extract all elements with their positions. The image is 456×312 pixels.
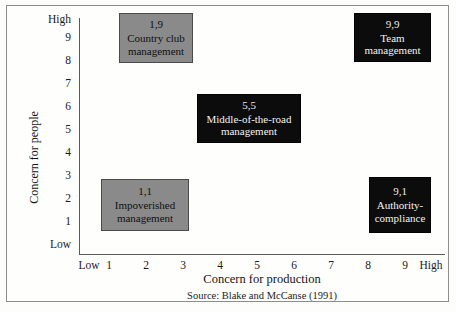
managerial-grid-figure: Concern for people High 9 8 7 6 5 4 3 2 …	[0, 0, 456, 312]
y-axis-high-label: High	[29, 14, 71, 26]
y-axis-line	[79, 18, 80, 255]
y-tick-5: 5	[29, 124, 71, 136]
style-code-impoverished: 1,1	[138, 185, 152, 198]
x-tick-3: 3	[163, 260, 203, 272]
style-code-middle-of-the-road: 5,5	[242, 99, 256, 112]
style-box-country-club[interactable]: 1,9 Country club management	[119, 13, 193, 63]
style-name-country-club-line2: management	[128, 45, 184, 58]
style-name-country-club-line1: Country club	[127, 32, 185, 45]
style-box-team[interactable]: 9,9 Team management	[354, 13, 431, 62]
style-code-team: 9,9	[386, 18, 400, 31]
y-tick-2: 2	[29, 193, 71, 205]
style-box-middle-of-the-road[interactable]: 5,5 Middle-of-the-road management	[197, 94, 301, 143]
x-tick-2: 2	[126, 260, 166, 272]
x-axis-high-label: High	[411, 260, 451, 272]
x-tick-1: 1	[89, 260, 129, 272]
x-axis-line	[79, 254, 445, 255]
x-tick-8: 8	[348, 260, 388, 272]
style-box-impoverished[interactable]: 1,1 Impoverished management	[101, 179, 189, 231]
style-name-authority-compliance-line2: compliance	[375, 212, 426, 225]
source-note: Source: Blake and McCanse (1991)	[137, 290, 387, 301]
style-name-middle-of-the-road-line1: Middle-of-the-road	[207, 113, 292, 126]
style-box-authority-compliance[interactable]: 9,1 Authority- compliance	[369, 177, 431, 233]
x-tick-6: 6	[274, 260, 314, 272]
style-code-authority-compliance: 9,1	[393, 185, 407, 198]
y-tick-3: 3	[29, 170, 71, 182]
style-name-team-line1: Team	[380, 32, 404, 45]
style-name-authority-compliance-line1: Authority-	[377, 199, 423, 212]
x-tick-7: 7	[311, 260, 351, 272]
style-name-impoverished-line2: management	[117, 212, 173, 225]
style-name-impoverished-line1: Impoverished	[115, 199, 175, 212]
y-tick-4: 4	[29, 147, 71, 159]
figure-border: Concern for people High 9 8 7 6 5 4 3 2 …	[6, 5, 449, 302]
y-tick-8: 8	[29, 55, 71, 67]
y-tick-6: 6	[29, 101, 71, 113]
y-axis-low-label: Low	[29, 239, 71, 251]
y-tick-1: 1	[29, 216, 71, 228]
y-tick-9: 9	[29, 32, 71, 44]
style-name-middle-of-the-road-line2: management	[221, 125, 277, 138]
x-axis-title: Concern for production	[147, 272, 377, 287]
y-tick-7: 7	[29, 78, 71, 90]
x-tick-5: 5	[237, 260, 277, 272]
style-name-team-line2: management	[364, 44, 420, 57]
x-tick-4: 4	[200, 260, 240, 272]
style-code-country-club: 1,9	[149, 18, 163, 31]
